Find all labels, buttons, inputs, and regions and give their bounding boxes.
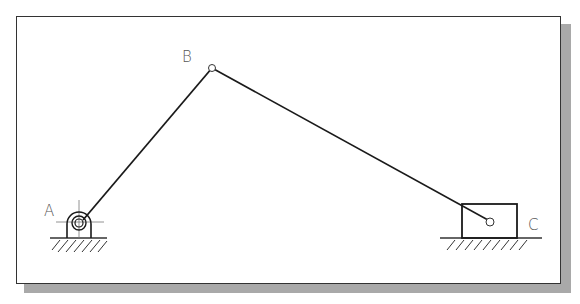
pivot-a <box>56 200 104 238</box>
label-b: B <box>182 48 192 66</box>
mechanism-drawing: A B C <box>0 0 580 304</box>
label-c: C <box>528 216 538 234</box>
ground-c <box>440 238 542 250</box>
joint-c <box>486 218 494 226</box>
diagram-canvas: A B C <box>0 0 580 304</box>
link-bc <box>212 68 488 220</box>
link-ab <box>83 68 212 220</box>
ground-a <box>50 238 107 252</box>
label-a: A <box>44 202 54 220</box>
joint-b <box>209 65 216 72</box>
